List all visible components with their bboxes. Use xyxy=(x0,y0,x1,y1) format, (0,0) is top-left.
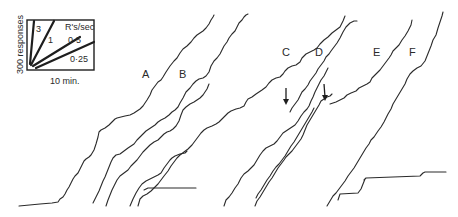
arrow-d xyxy=(322,84,328,101)
record-d-upper-curve xyxy=(290,21,357,112)
record-d-curve xyxy=(255,94,332,206)
record-f-label: F xyxy=(409,46,416,58)
slope-label-3: 3 xyxy=(36,24,41,34)
arrow-c xyxy=(283,88,289,105)
slope-label-1: 1 xyxy=(48,35,53,45)
slope-label-0-25: 0·25 xyxy=(70,54,88,64)
record-c-lower-trace xyxy=(224,68,328,206)
y-scale-label: 300 responses xyxy=(15,14,25,74)
slope-line-3 xyxy=(30,21,34,64)
slope-label-0-5: 0·5 xyxy=(68,35,81,45)
rate-unit-label: R's/sec xyxy=(65,22,95,32)
cumulative-records-figure: 3 1 R's/sec 0·5 0·25 300 responses 10 mi… xyxy=(0,0,458,217)
record-b-label: B xyxy=(179,68,186,80)
record-d-lower-trace xyxy=(256,108,314,198)
record-a-label: A xyxy=(142,68,150,80)
x-scale-label: 10 min. xyxy=(50,76,80,86)
record-c-label: C xyxy=(282,46,290,58)
record-a-lower-trace xyxy=(93,14,248,203)
slope-legend: 3 1 R's/sec 0·5 0·25 300 responses 10 mi… xyxy=(15,14,95,86)
record-b-branch xyxy=(130,151,187,206)
record-e-label: E xyxy=(373,46,380,58)
record-d-label: D xyxy=(315,46,323,58)
record-f-curve xyxy=(338,172,446,200)
